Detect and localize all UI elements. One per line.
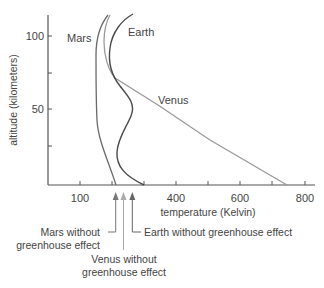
mars-curve — [96, 15, 116, 185]
y-tick-label-100: 100 — [26, 30, 44, 42]
venus-note-line2: greenhouse effect — [82, 266, 166, 278]
y-tick-label-50: 50 — [32, 103, 44, 115]
earth-note: Earth without greenhouse effect — [144, 226, 292, 238]
venus-arrow — [121, 192, 127, 250]
venus-curve — [104, 15, 287, 185]
venus-note-line1: Venus without — [91, 253, 156, 265]
atmosphere-temperature-chart: 100 50 100 400 600 800 temperature (Kelv… — [0, 0, 324, 288]
mars-note-line2: greenhouse effect — [16, 239, 100, 251]
x-tick-label-800: 800 — [296, 192, 314, 204]
x-axis-label: temperature (Kelvin) — [160, 206, 255, 218]
earth-curve — [109, 14, 144, 185]
venus-label: Venus — [158, 94, 189, 106]
mars-arrow — [108, 192, 119, 232]
earth-arrow — [129, 192, 141, 232]
x-tick-label-100: 100 — [71, 192, 89, 204]
y-axis-label: altitude (kilometers) — [7, 54, 19, 146]
earth-label: Earth — [128, 26, 154, 38]
mars-label: Mars — [67, 32, 92, 44]
mars-note-line1: Mars without — [40, 226, 100, 238]
x-tick-label-400: 400 — [167, 192, 185, 204]
x-tick-label-600: 600 — [231, 192, 249, 204]
